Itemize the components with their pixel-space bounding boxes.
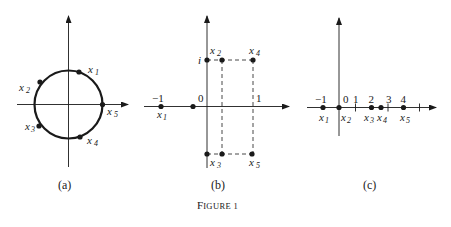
caption-b: (b) (211, 178, 225, 192)
caption-a: (a) (58, 178, 71, 192)
point-b-i (204, 57, 209, 62)
label-b-x1: x1 (156, 108, 167, 122)
label-c-x2: x2 (340, 111, 351, 125)
tick-c-label-one: 1 (353, 93, 359, 105)
point-c-x2 (336, 105, 341, 110)
point-b-x2 (219, 57, 224, 62)
point-a-x3 (36, 123, 41, 128)
point-a-x4 (77, 134, 82, 139)
point-a-x2 (37, 79, 42, 84)
label-b-x3: x3 (209, 156, 221, 170)
tick-b-zero: 0 (198, 92, 204, 104)
tick-c-label-four: 4 (401, 93, 407, 105)
label-a-x2: x2 (18, 81, 30, 95)
label-a-x3: x3 (24, 120, 35, 134)
panel-c: −1 0 1 2 3 4 x1 x2 x3 x4 x5 (c) (307, 18, 436, 192)
panel-b: −1 0 1 i x1 x2 x3 x4 x5 (b) (144, 16, 289, 192)
figure-caption: FIGURE 1 (197, 199, 238, 211)
point-c-x1 (320, 105, 325, 110)
label-a-x1: x1 (87, 63, 99, 77)
label-c-x3: x3 (363, 111, 374, 125)
tick-c-label-zero: 0 (343, 93, 349, 105)
point-b-x4 (250, 57, 255, 62)
label-a-x5: x5 (106, 105, 118, 119)
point-b-extra (190, 104, 195, 109)
figure-1: x1 x2 x3 x4 x5 (a) −1 0 1 i x1 x2 x3 x4 (0, 0, 451, 227)
point-c-x5 (401, 105, 406, 110)
point-a-x1 (76, 69, 81, 74)
point-b-x3 (204, 151, 209, 156)
point-b-bottom-mid (219, 151, 224, 156)
point-a-x5 (100, 102, 105, 107)
point-c-x4 (378, 105, 383, 110)
label-c-x4: x4 (376, 111, 387, 125)
tick-b-minus-one: −1 (152, 92, 164, 104)
label-b-x5: x5 (248, 156, 260, 170)
tick-b-i: i (198, 54, 201, 66)
label-a-x4: x4 (86, 134, 98, 148)
tick-c-label-three: 3 (386, 93, 392, 105)
caption-c: (c) (363, 178, 376, 192)
tick-c-label-minus-one: −1 (315, 93, 327, 105)
label-c-x5: x5 (399, 111, 410, 125)
label-c-x1: x1 (318, 111, 329, 125)
point-c-x3 (369, 105, 374, 110)
label-b-x4: x4 (248, 44, 260, 58)
tick-c-label-two: 2 (369, 93, 375, 105)
label-b-x2: x2 (209, 44, 221, 58)
panel-a: x1 x2 x3 x4 x5 (a) (17, 16, 128, 192)
tick-b-one: 1 (256, 92, 262, 104)
